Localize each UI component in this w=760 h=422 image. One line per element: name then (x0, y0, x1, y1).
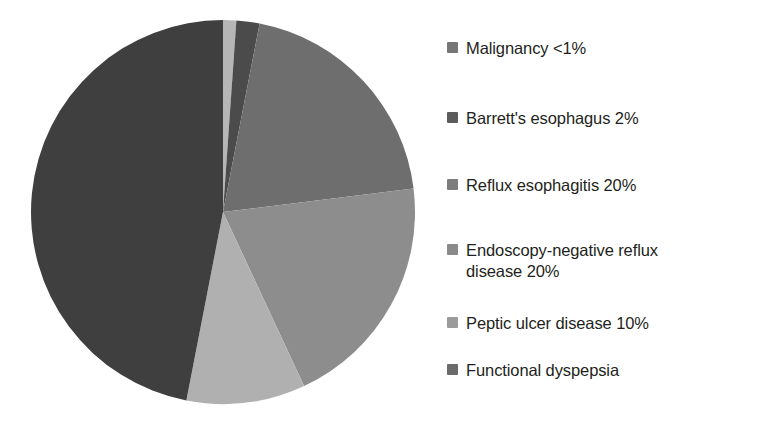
legend-item-label: Barrett's esophagus 2% (466, 108, 638, 129)
pie-svg (0, 0, 440, 422)
legend-item-peptic-ulcer-disease[interactable]: Peptic ulcer disease 10% (447, 313, 649, 334)
legend-item-malignancy[interactable]: Malignancy <1% (447, 38, 586, 59)
legend-item-label: Endoscopy-negative reflux disease 20% (466, 240, 658, 282)
legend-item-reflux-esophagitis[interactable]: Reflux esophagitis 20% (447, 175, 636, 196)
pie-plot-area (0, 0, 440, 422)
legend-item-label: Functional dyspepsia (466, 360, 619, 381)
legend-item-functional-dyspepsia[interactable]: Functional dyspepsia (447, 360, 619, 381)
legend-item-label: Malignancy <1% (466, 38, 586, 59)
legend-swatch-icon (447, 179, 458, 190)
legend-item-endoscopy-negative-reflux-disease[interactable]: Endoscopy-negative reflux disease 20% (447, 240, 658, 282)
chart-legend: Malignancy <1% Barrett's esophagus 2% Re… (447, 0, 760, 422)
pie-chart-figure: Malignancy <1% Barrett's esophagus 2% Re… (0, 0, 760, 422)
legend-swatch-icon (447, 112, 458, 123)
legend-item-label: Peptic ulcer disease 10% (466, 313, 649, 334)
legend-item-barretts-esophagus[interactable]: Barrett's esophagus 2% (447, 108, 638, 129)
legend-swatch-icon (447, 244, 458, 255)
legend-item-label: Reflux esophagitis 20% (466, 175, 636, 196)
legend-swatch-icon (447, 364, 458, 375)
pie-slice-group (31, 20, 415, 404)
legend-swatch-icon (447, 42, 458, 53)
pie-slice[interactable] (31, 20, 223, 400)
legend-swatch-icon (447, 317, 458, 328)
